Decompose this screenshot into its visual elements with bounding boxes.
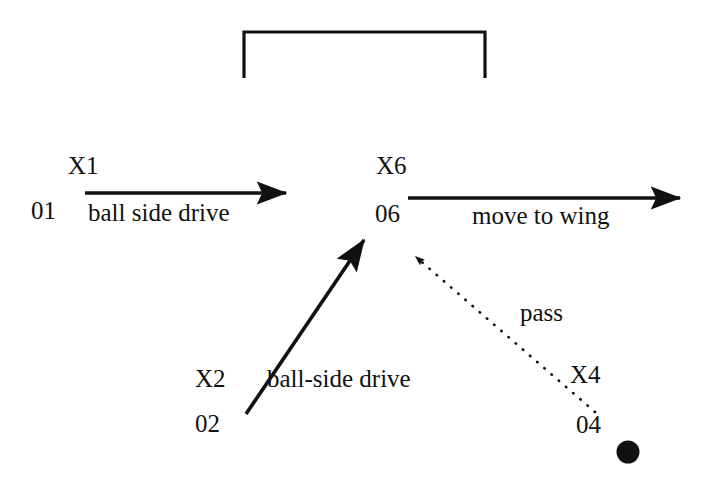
action-label-pass: pass bbox=[520, 300, 563, 325]
player-number-02: 02 bbox=[195, 411, 220, 436]
action-label-ball-side-drive-2: ball-side drive bbox=[267, 366, 411, 391]
player-number-06: 06 bbox=[375, 201, 400, 226]
player-tag-x2: X2 bbox=[195, 366, 226, 391]
player-number-04: 04 bbox=[576, 412, 601, 437]
player-number-01: 01 bbox=[31, 198, 56, 223]
player-tag-x4: X4 bbox=[570, 362, 601, 387]
player-tag-x6: X6 bbox=[376, 153, 407, 178]
ball-marker bbox=[617, 441, 640, 464]
action-label-move-to-wing: move to wing bbox=[472, 203, 610, 228]
arrow-pass-x4 bbox=[416, 257, 595, 412]
action-label-ball-side-drive: ball side drive bbox=[88, 200, 230, 225]
diagram-vector-layer bbox=[0, 0, 721, 486]
play-diagram-canvas: X1 01 ball side drive X6 06 move to wing… bbox=[0, 0, 721, 486]
key-bracket bbox=[244, 32, 485, 78]
player-tag-x1: X1 bbox=[68, 153, 99, 178]
